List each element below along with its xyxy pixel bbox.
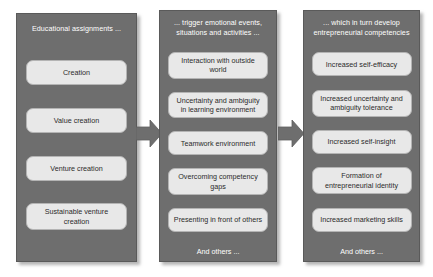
card-formation-of-entrepreneurial-identity: Formation of entrepreneurial identity xyxy=(312,167,412,194)
footnote-emotional-events: And others ... xyxy=(197,247,240,261)
panel-header-entrepreneurial-competencies: ... which in turn develop entrepreneuria… xyxy=(308,18,416,37)
card-uncertainty-and-ambiguity: Uncertainty and ambiguity in learning en… xyxy=(168,92,268,119)
panel-educational-assignments: Educational assignments ... Creation Val… xyxy=(16,13,137,262)
card-increased-marketing-skills: Increased marketing skills xyxy=(312,208,412,232)
card-stack-emotional-events: Interaction with outside world Uncertain… xyxy=(160,37,276,247)
card-teamwork-environment: Teamwork environment xyxy=(168,131,268,155)
arrow-right-icon xyxy=(278,119,304,148)
card-venture-creation: Venture creation xyxy=(26,156,127,181)
flow-diagram: Educational assignments ... Creation Val… xyxy=(0,0,433,277)
card-overcoming-competency-gaps: Overcoming competency gaps xyxy=(168,168,268,195)
panel-entrepreneurial-competencies: ... which in turn develop entrepreneuria… xyxy=(303,10,420,262)
card-creation: Creation xyxy=(26,60,127,85)
card-sustainable-venture-creation: Sustainable venture creation xyxy=(26,203,127,230)
panel-header-emotional-events: ... trigger emotional events, situations… xyxy=(164,18,272,37)
card-increased-self-insight: Increased self-insight xyxy=(312,130,412,154)
card-value-creation: Value creation xyxy=(26,108,127,133)
card-increased-uncertainty-tolerance: Increased uncertainty and ambiguity tole… xyxy=(312,90,412,117)
panel-header-educational-assignments: Educational assignments ... xyxy=(23,21,131,34)
panel-emotional-events: ... trigger emotional events, situations… xyxy=(159,10,277,262)
footnote-entrepreneurial-competencies: And others ... xyxy=(340,247,383,261)
card-presenting-in-front-of-others: Presenting in front of others xyxy=(168,208,268,232)
card-stack-educational-assignments: Creation Value creation Venture creation… xyxy=(17,34,136,262)
card-interaction-with-outside-world: Interaction with outside world xyxy=(168,52,268,79)
card-stack-entrepreneurial-competencies: Increased self-efficacy Increased uncert… xyxy=(304,37,419,247)
card-increased-self-efficacy: Increased self-efficacy xyxy=(312,52,412,76)
